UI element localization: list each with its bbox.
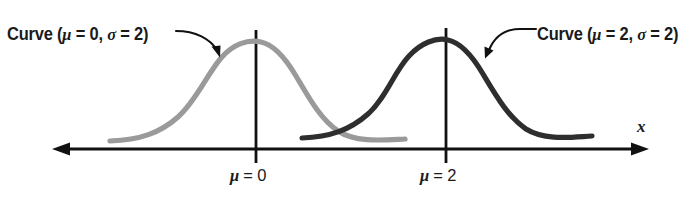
curve-label-left: Curve (μ = 0, σ = 2) [7,24,148,45]
normal-curve-mu0 [110,41,405,141]
leader-arrow-left [176,31,221,58]
sigma-symbol-left: σ [107,24,116,44]
normal-curves-figure: Curve (μ = 0, σ = 2) Curve (μ = 2, σ = 2… [0,0,696,199]
curve-label-right-sigma-value: = 2) [646,24,678,44]
x-axis-label: x [637,117,645,137]
tick-label-mu0: μ = 0 [230,166,266,186]
leader-arrowhead-left [212,46,221,58]
mu-symbol-tick0: μ [230,166,239,185]
x-axis-right-arrowhead [631,143,649,156]
leader-line-right-path [489,29,536,50]
x-axis-left-arrowhead [52,143,70,156]
curve-label-right: Curve (μ = 2, σ = 2) [537,24,678,45]
curve-label-left-mu-value: = 0, [71,24,107,44]
leader-line-left-path [176,31,217,50]
curve-label-right-prefix: Curve ( [537,24,592,44]
leader-arrow-right [485,29,537,59]
sigma-symbol-right: σ [637,24,646,44]
curve-label-left-sigma-value: = 2) [116,24,148,44]
tick-label-mu2: μ = 2 [420,166,456,186]
tick-label-mu2-value: = 2 [429,166,456,184]
tick-label-mu0-value: = 0 [239,166,266,184]
curve-label-right-mu-value: = 2, [601,24,637,44]
x-axis-group [52,143,649,156]
mu-symbol-tick2: μ [420,166,429,185]
curve-label-left-prefix: Curve ( [7,24,62,44]
